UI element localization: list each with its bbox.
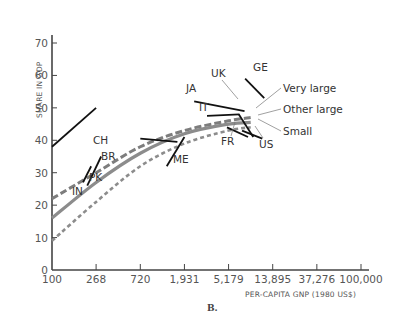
legend: Very largeOther largeSmall — [256, 82, 343, 137]
x-tick-label: 1,931 — [169, 273, 199, 285]
panel-label: B. — [207, 303, 218, 313]
country-label-ge: GE — [253, 61, 268, 73]
country-segment-it — [207, 114, 239, 116]
x-tick-label: 720 — [130, 273, 150, 285]
legend-small: Small — [283, 125, 312, 137]
country-label-br: BR — [101, 150, 116, 162]
chart-canvas: 0102030405060701002687201,9315,17913,895… — [0, 0, 399, 326]
country-label-pk: PK — [89, 171, 103, 183]
x-tick-label: 100 — [42, 273, 62, 285]
x-tick-label: 268 — [86, 273, 106, 285]
country-label-it: IT — [199, 101, 209, 113]
x-tick-label: 13,895 — [254, 273, 291, 285]
y-tick-label: 30 — [35, 167, 48, 179]
x-tick-label: 37,276 — [298, 273, 335, 285]
country-label-uk: UK — [211, 67, 227, 79]
legend-leader-line — [256, 88, 281, 108]
y-tick-label: 20 — [35, 199, 48, 211]
country-label-ja: JA — [185, 82, 197, 94]
country-label-fr: FR — [221, 135, 234, 147]
legend-other-large: Other large — [283, 103, 343, 115]
x-tick-label: 5,179 — [214, 273, 244, 285]
country-segment-ch — [52, 108, 96, 147]
country-label-ch: CH — [93, 134, 108, 146]
legend-very-large: Very large — [283, 82, 336, 94]
country-label-me: ME — [173, 153, 189, 165]
legend-leader-line — [258, 109, 281, 115]
axes: 0102030405060701002687201,9315,17913,895… — [35, 35, 383, 285]
y-tick-label: 70 — [35, 37, 48, 49]
x-axis-title: PER-CAPITA GNP (1980 US$) — [245, 290, 356, 299]
y-tick-label: 10 — [35, 232, 48, 244]
y-tick-label: 40 — [35, 134, 48, 146]
y-axis-title: SHARE IN GDP — [35, 61, 44, 118]
legend-leader-line — [258, 119, 281, 131]
country-label-in: IN — [72, 185, 83, 197]
uk-leader-line — [222, 80, 238, 99]
country-label-us: US — [259, 138, 274, 150]
country-segments: CHINPKBRMEJAITUKFRUSGE — [52, 61, 274, 197]
x-tick-label: 100,000 — [339, 273, 382, 285]
country-segment-ge — [245, 79, 264, 98]
